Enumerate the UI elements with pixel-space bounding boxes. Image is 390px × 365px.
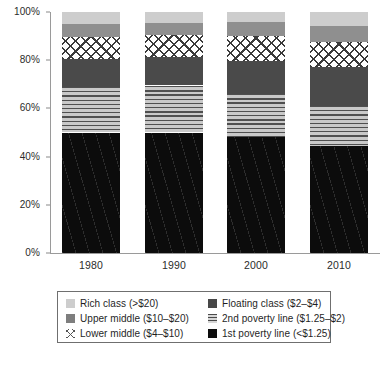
bar-segment-floating (227, 61, 285, 94)
bar-1980 (62, 12, 120, 253)
bar-segment-rich (145, 12, 203, 23)
legend-column-right: Floating class ($2–$4)2nd poverty line (… (208, 296, 345, 341)
y-tick-label: 60% (20, 103, 40, 113)
legend-swatch-lower-icon (66, 329, 75, 338)
y-tick-label: 40% (20, 152, 40, 162)
bar-segment-lower (310, 42, 368, 67)
legend-item[interactable]: Lower middle ($4–$10) (66, 326, 189, 340)
bar-segment-upper (145, 23, 203, 35)
bar-2010 (310, 12, 368, 253)
bar-segment-upper (227, 22, 285, 36)
bar-segment-floating (310, 67, 368, 106)
bar-segment-second (62, 87, 120, 133)
bar-segment-floating (62, 59, 120, 87)
y-tick-label: 100% (14, 7, 40, 17)
bar-segment-lower (145, 35, 203, 57)
legend-item[interactable]: Rich class (>$20) (66, 296, 189, 310)
bar-segment-rich (227, 12, 285, 22)
legend-label: Rich class (>$20) (80, 298, 158, 309)
y-axis: 100%80%60%40%20%0% (0, 12, 46, 252)
legend-item[interactable]: Floating class ($2–$4) (208, 296, 345, 310)
bars-container (50, 12, 380, 253)
legend-swatch-upper-icon (66, 314, 75, 323)
y-tick-label: 20% (20, 200, 40, 210)
bar-segment-lower (62, 37, 120, 59)
bar-segment-lower (227, 36, 285, 61)
plot-area: 100%80%60%40%20%0% 1980199020002010 (0, 12, 390, 270)
bar-segment-second (145, 86, 203, 133)
legend-column-left: Rich class (>$20)Upper middle ($10–$20)L… (66, 296, 189, 341)
x-tick-label: 1980 (62, 260, 120, 271)
legend-label: Upper middle ($10–$20) (80, 313, 189, 324)
legend-label: 1st poverty line (<$1.25) (222, 328, 331, 339)
legend-swatch-first-icon (208, 329, 217, 338)
legend-swatch-rich-icon (66, 299, 75, 308)
x-tick-label: 1990 (145, 260, 203, 271)
bar-segment-second (227, 94, 285, 137)
legend-item[interactable]: Upper middle ($10–$20) (66, 311, 189, 325)
x-tick-label: 2010 (310, 260, 368, 271)
x-tick-label: 2000 (227, 260, 285, 271)
stacked-bar-chart: 100%80%60%40%20%0% 1980199020002010 Rich… (0, 0, 390, 365)
legend-item[interactable]: 1st poverty line (<$1.25) (208, 326, 345, 340)
bar-segment-second (310, 106, 368, 146)
bar-segment-first (145, 133, 203, 254)
chart-legend: Rich class (>$20)Upper middle ($10–$20)L… (57, 291, 331, 343)
y-tick-label: 80% (20, 55, 40, 65)
legend-swatch-floating-icon (208, 299, 217, 308)
bar-segment-rich (62, 12, 120, 24)
legend-item[interactable]: 2nd poverty line ($1.25–$2) (208, 311, 345, 325)
legend-label: Floating class ($2–$4) (222, 298, 321, 309)
bar-1990 (145, 12, 203, 253)
legend-label: 2nd poverty line ($1.25–$2) (222, 313, 345, 324)
x-axis-line (50, 253, 380, 254)
bar-segment-first (227, 137, 285, 253)
bar-segment-first (62, 133, 120, 254)
bar-segment-upper (310, 26, 368, 42)
legend-swatch-second-icon (208, 314, 217, 323)
bar-segment-rich (310, 12, 368, 26)
bar-segment-first (310, 146, 368, 253)
bar-2000 (227, 12, 285, 253)
bar-segment-upper (62, 24, 120, 37)
legend-label: Lower middle ($4–$10) (80, 328, 183, 339)
bar-segment-floating (145, 57, 203, 86)
y-tick-label: 0% (25, 248, 40, 258)
